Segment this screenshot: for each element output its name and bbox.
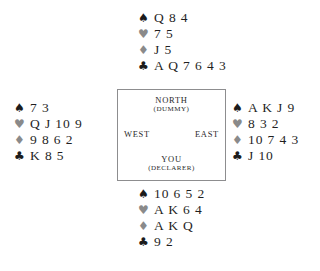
- hand-south-hearts: A K 6 4: [151, 202, 203, 218]
- hand-north-spades-row: ♠ Q 8 4: [138, 10, 227, 26]
- hand-north-clubs: A Q 7 6 4 3: [151, 58, 227, 74]
- hand-south-spades-row: ♠ 10 6 5 2: [138, 186, 205, 202]
- hand-north: ♠ Q 8 4 ♥ 7 5 ♦ J 5 ♣ A Q 7 6 4 3: [138, 10, 227, 74]
- heart-icon: ♥: [138, 202, 151, 218]
- hand-east-spades-row: ♠ A K J 9: [232, 100, 299, 116]
- hand-north-hearts: 7 5: [151, 26, 174, 42]
- bridge-hand-diagram: ♠ Q 8 4 ♥ 7 5 ♦ J 5 ♣ A Q 7 6 4 3 ♠ 7 3 …: [0, 0, 320, 271]
- compass-label-north-role: (DUMMY): [118, 105, 225, 113]
- hand-east-clubs: J 10: [245, 148, 274, 164]
- hand-north-diamonds: J 5: [151, 42, 172, 58]
- hand-south-diamonds-row: ♦ A K Q: [138, 218, 205, 234]
- hand-south-clubs-row: ♣ 9 2: [138, 234, 205, 250]
- club-icon: ♣: [138, 58, 151, 74]
- hand-east-hearts-row: ♥ 8 3 2: [232, 116, 299, 132]
- compass-label-south: YOU: [118, 154, 225, 164]
- club-icon: ♣: [14, 148, 27, 164]
- diamond-icon: ♦: [14, 132, 27, 148]
- hand-east-diamonds: 10 7 4 3: [245, 132, 299, 148]
- spade-icon: ♠: [138, 10, 151, 26]
- hand-south-hearts-row: ♥ A K 6 4: [138, 202, 205, 218]
- heart-icon: ♥: [232, 116, 245, 132]
- hand-west-spades: 7 3: [27, 100, 50, 116]
- hand-west-clubs: K 8 5: [27, 148, 65, 164]
- hand-west-clubs-row: ♣ K 8 5: [14, 148, 83, 164]
- hand-south-diamonds: A K Q: [151, 218, 194, 234]
- hand-west-diamonds-row: ♦ 9 8 6 2: [14, 132, 83, 148]
- spade-icon: ♠: [14, 100, 27, 116]
- hand-north-spades: Q 8 4: [151, 10, 189, 26]
- diamond-icon: ♦: [232, 132, 245, 148]
- hand-west-spades-row: ♠ 7 3: [14, 100, 83, 116]
- hand-west-hearts-row: ♥ Q J 10 9: [14, 116, 83, 132]
- hand-east-diamonds-row: ♦ 10 7 4 3: [232, 132, 299, 148]
- hand-east-hearts: 8 3 2: [245, 116, 280, 132]
- compass-label-north: NORTH: [118, 95, 225, 105]
- hand-east-spades: A K J 9: [245, 100, 295, 116]
- heart-icon: ♥: [14, 116, 27, 132]
- hand-north-hearts-row: ♥ 7 5: [138, 26, 227, 42]
- compass-label-east: EAST: [195, 129, 219, 139]
- hand-west-diamonds: 9 8 6 2: [27, 132, 73, 148]
- compass-label-south-role: (DECLARER): [118, 164, 225, 172]
- hand-north-clubs-row: ♣ A Q 7 6 4 3: [138, 58, 227, 74]
- club-icon: ♣: [232, 148, 245, 164]
- heart-icon: ♥: [138, 26, 151, 42]
- hand-west-hearts: Q J 10 9: [27, 116, 83, 132]
- spade-icon: ♠: [232, 100, 245, 116]
- hand-south-clubs: 9 2: [151, 234, 174, 250]
- hand-north-diamonds-row: ♦ J 5: [138, 42, 227, 58]
- hand-south: ♠ 10 6 5 2 ♥ A K 6 4 ♦ A K Q ♣ 9 2: [138, 186, 205, 250]
- compass-label-west: WEST: [124, 129, 150, 139]
- diamond-icon: ♦: [138, 218, 151, 234]
- hand-south-spades: 10 6 5 2: [151, 186, 205, 202]
- hand-west: ♠ 7 3 ♥ Q J 10 9 ♦ 9 8 6 2 ♣ K 8 5: [14, 100, 83, 164]
- hand-east-clubs-row: ♣ J 10: [232, 148, 299, 164]
- club-icon: ♣: [138, 234, 151, 250]
- hand-east: ♠ A K J 9 ♥ 8 3 2 ♦ 10 7 4 3 ♣ J 10: [232, 100, 299, 164]
- spade-icon: ♠: [138, 186, 151, 202]
- diamond-icon: ♦: [138, 42, 151, 58]
- compass-box: NORTH (DUMMY) WEST EAST YOU (DECLARER): [117, 89, 226, 181]
